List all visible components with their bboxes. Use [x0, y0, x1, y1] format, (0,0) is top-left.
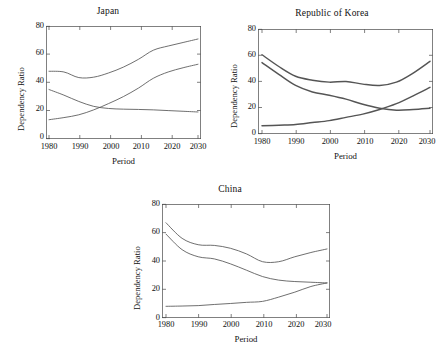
y-tick-80-china: 80	[138, 199, 160, 208]
x-tick-2010-korea: 2010	[352, 137, 378, 146]
panel-title-korea: Republic of Korea	[242, 8, 422, 18]
y-tick-0-japan: 0	[22, 132, 44, 141]
x-tick-2020-japan: 2020	[159, 142, 185, 151]
x-tick-2000-korea: 2000	[317, 137, 343, 146]
plot-frame-china	[162, 204, 329, 317]
y-tick-40-china: 40	[138, 256, 160, 265]
y-axis-label-korea: Dependency Ratio	[229, 64, 239, 128]
series-line-japan-2	[49, 64, 198, 119]
plot-svg-japan	[46, 26, 201, 144]
panel-china: China Dependency Ratio 80 60 40 20 0	[120, 182, 338, 350]
x-tickmarks-china	[166, 204, 327, 317]
plot-frame-japan	[46, 26, 200, 138]
series-line-japan-0	[49, 39, 198, 78]
series-lines-korea	[262, 55, 430, 126]
y-tick-20-japan: 20	[22, 104, 44, 113]
x-tick-1980-japan: 1980	[36, 142, 62, 151]
plot-area-japan	[46, 26, 201, 144]
x-axis-label-japan: Period	[46, 156, 201, 166]
plot-area-china	[162, 204, 332, 326]
plot-svg-china	[162, 204, 332, 326]
series-line-china-1	[166, 234, 327, 283]
y-tickmarks-china	[162, 204, 329, 317]
x-tick-1980-china: 1980	[153, 320, 179, 329]
x-tick-1980-korea: 1980	[249, 137, 275, 146]
x-tick-2020-china: 2020	[283, 320, 309, 329]
x-tick-2030-korea: 2030	[414, 137, 439, 146]
y-tick-80-japan: 80	[22, 21, 44, 30]
x-axis-label-china: Period	[162, 334, 330, 344]
x-tick-1990-korea: 1990	[283, 137, 309, 146]
series-line-republic-of-korea-1	[262, 63, 430, 111]
x-tick-2010-japan: 2010	[128, 142, 154, 151]
series-lines-japan	[49, 39, 198, 120]
series-lines-china	[166, 223, 327, 307]
x-axis-label-korea: Period	[258, 151, 433, 161]
x-tick-2000-china: 2000	[218, 320, 244, 329]
plot-svg-korea	[258, 29, 433, 144]
y-tick-20-korea: 20	[234, 102, 256, 111]
panel-japan: Japan Dependency Ratio 80 60 40 20 0	[6, 6, 210, 174]
y-tick-40-japan: 40	[22, 76, 44, 85]
y-tick-60-korea: 60	[234, 50, 256, 59]
x-tick-2000-japan: 2000	[98, 142, 124, 151]
series-line-japan-1	[49, 90, 198, 112]
y-tick-80-korea: 80	[234, 24, 256, 33]
series-line-china-0	[166, 223, 327, 263]
x-tick-1990-china: 1990	[186, 320, 212, 329]
x-tickmarks-japan	[49, 26, 198, 138]
panel-korea: Republic of Korea Dependency Ratio 80 60…	[222, 6, 434, 174]
x-tick-2030-japan: 2030	[185, 142, 211, 151]
plot-area-korea	[258, 29, 433, 144]
panel-title-japan: Japan	[28, 6, 188, 16]
y-tick-40-korea: 40	[234, 76, 256, 85]
y-tick-60-japan: 60	[22, 48, 44, 57]
x-tick-2010-china: 2010	[251, 320, 277, 329]
y-tick-20-china: 20	[138, 284, 160, 293]
series-line-china-2	[166, 283, 327, 306]
y-tickmarks-japan	[46, 26, 200, 138]
y-tick-60-china: 60	[138, 227, 160, 236]
x-tick-2030-china: 2030	[310, 320, 336, 329]
x-tick-2020-korea: 2020	[386, 137, 412, 146]
panel-title-china: China	[150, 184, 310, 194]
series-line-republic-of-korea-2	[262, 87, 430, 125]
x-tick-1990-japan: 1990	[67, 142, 93, 151]
y-tick-0-korea: 0	[234, 128, 256, 137]
